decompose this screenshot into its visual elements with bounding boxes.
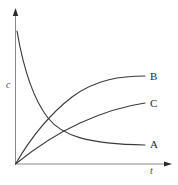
x-axis (16, 161, 173, 166)
curve-b-path (16, 76, 146, 164)
plot-canvas (0, 0, 178, 185)
y-axis-arrowhead (13, 8, 18, 16)
curve-label-c: C (150, 98, 157, 109)
curve-a-path (17, 31, 145, 145)
x-axis-label: t (150, 166, 153, 176)
y-axis-label: c (6, 80, 10, 90)
x-axis-arrowhead (164, 161, 172, 166)
curve-label-a: A (150, 139, 158, 150)
curve-c-path (16, 103, 146, 164)
curve-label-b: B (150, 71, 157, 82)
chart-figure: c t A B C (0, 0, 178, 185)
